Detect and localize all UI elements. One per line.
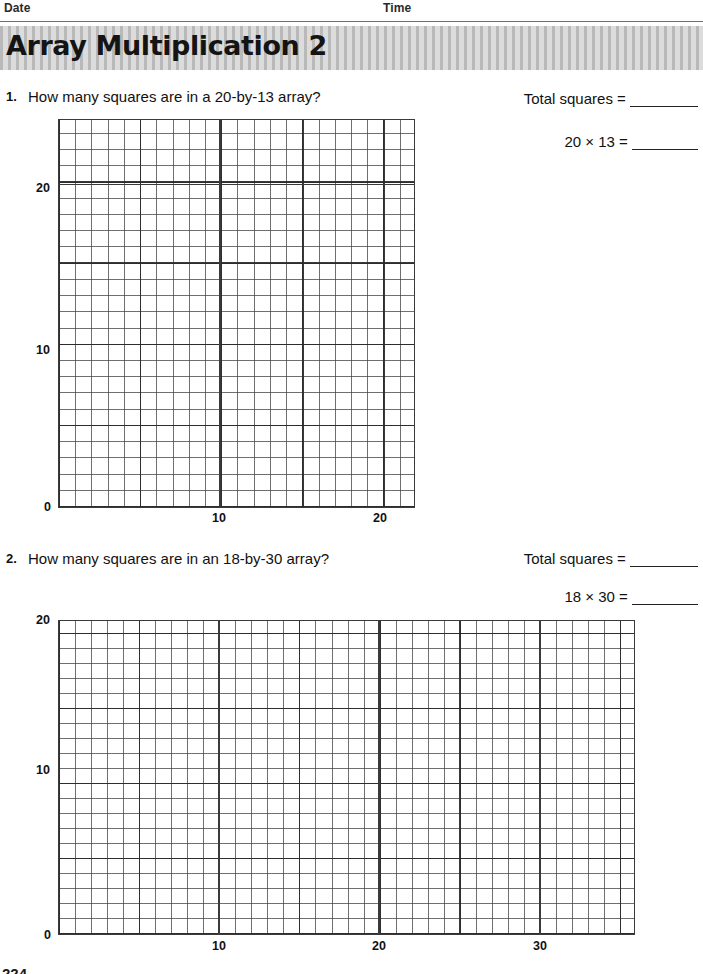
page-title: Array Multiplication 2 bbox=[6, 30, 327, 61]
problem-1-ytick-0: 0 bbox=[44, 500, 51, 514]
problem-1-answer-product: 20 × 13 = bbox=[440, 133, 698, 150]
problem-1-grid bbox=[58, 119, 415, 508]
problem-1-grid-cells bbox=[58, 119, 415, 508]
problem-2-ytick-20: 20 bbox=[36, 613, 50, 627]
problem-2-gridline-x10 bbox=[218, 620, 220, 935]
problem-2-ytick-0: 0 bbox=[44, 928, 51, 942]
problem-1-answer-total: Total squares = bbox=[440, 90, 698, 107]
problem-2-grid bbox=[58, 620, 635, 935]
problem-2-gridline-x20 bbox=[378, 620, 380, 935]
problem-1-ytick-20: 20 bbox=[36, 181, 50, 195]
problem-1-question: How many squares are in a 20-by-13 array… bbox=[28, 88, 321, 105]
problem-2-answer-product-blank[interactable] bbox=[632, 589, 698, 605]
problem-1-answer-product-label: 20 × 13 = bbox=[564, 133, 627, 150]
footer-page-number: 224 bbox=[2, 966, 27, 974]
problem-2-xtick-20: 20 bbox=[372, 939, 386, 953]
problem-2-answer-total: Total squares = bbox=[440, 550, 698, 567]
title-banner: Array Multiplication 2 bbox=[0, 26, 703, 70]
problem-1-number: 1. bbox=[6, 89, 17, 104]
problem-2-ytick-10: 10 bbox=[36, 763, 50, 777]
time-label: Time bbox=[383, 1, 411, 15]
problem-1-ytick-10: 10 bbox=[36, 343, 50, 357]
problem-1-answer-product-blank[interactable] bbox=[632, 134, 698, 150]
problem-1-xtick-10: 10 bbox=[212, 511, 226, 525]
problem-2-xtick-30: 30 bbox=[533, 939, 547, 953]
problem-1-answer-total-label: Total squares = bbox=[524, 90, 626, 107]
problem-2-xtick-10: 10 bbox=[212, 939, 226, 953]
problem-2-answer-product: 18 × 30 = bbox=[440, 588, 698, 605]
problem-2-answer-total-label: Total squares = bbox=[524, 550, 626, 567]
problem-2-number: 2. bbox=[6, 551, 17, 566]
date-label: Date bbox=[4, 1, 30, 15]
problem-1-gridline-x10 bbox=[219, 119, 221, 508]
problem-1-answer-total-blank[interactable] bbox=[630, 91, 698, 107]
problem-1-xtick-20: 20 bbox=[373, 511, 387, 525]
problem-2-answer-product-label: 18 × 30 = bbox=[564, 588, 627, 605]
problem-2-answer-total-blank[interactable] bbox=[630, 551, 698, 567]
problem-2-grid-cells bbox=[58, 620, 635, 935]
problem-1-gridline-y20 bbox=[58, 184, 415, 186]
page-header: Date Time bbox=[0, 0, 703, 22]
problem-2-question: How many squares are in an 18-by-30 arra… bbox=[28, 550, 329, 567]
problem-2-gridline-x30 bbox=[539, 620, 541, 935]
